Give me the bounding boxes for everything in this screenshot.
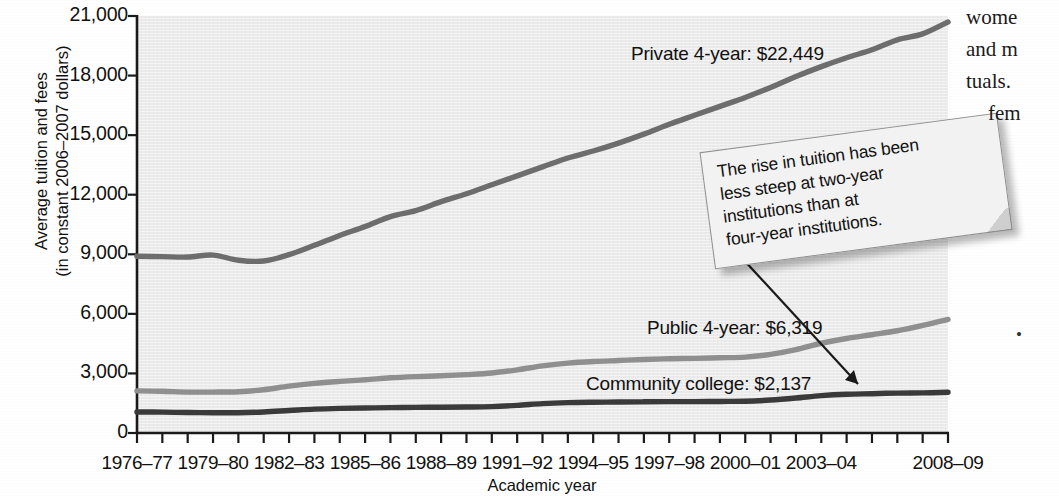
series-line-public-4-year <box>137 319 948 392</box>
body-line-3: tuals. <box>966 66 1059 98</box>
body-line-2: and m <box>966 34 1059 66</box>
chart-canvas <box>0 0 1059 496</box>
page-margin-mark: • <box>1016 325 1022 345</box>
body-line-1: wome <box>966 2 1059 34</box>
series-label-private: Private 4-year: $22,449 <box>631 43 824 65</box>
body-line-4: fem <box>966 98 1059 130</box>
series-label-community: Community college: $2,137 <box>586 373 811 395</box>
page-body-text-column: wome and m tuals. fem <box>966 2 1059 130</box>
series-label-public: Public 4-year: $6,319 <box>647 317 822 339</box>
callout-fold-corner <box>984 208 1013 233</box>
series-line-community-college <box>137 392 948 413</box>
